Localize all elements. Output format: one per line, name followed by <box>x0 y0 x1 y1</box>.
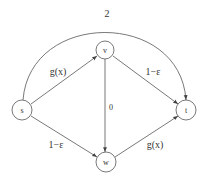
node-t: t <box>176 100 196 120</box>
edge-labels: 2 g(x) 1−ε 0 1−ε g(x) <box>49 8 164 151</box>
edge-w-t <box>115 116 178 157</box>
edge-label-s-t: 2 <box>105 8 110 19</box>
edge-s-w <box>31 116 97 157</box>
edge-label-w-t: g(x) <box>147 139 164 151</box>
nodes: s v w t <box>12 41 196 172</box>
flow-network-diagram: 2 g(x) 1−ε 0 1−ε g(x) s v w t <box>0 0 208 183</box>
edge-label-v-w: 0 <box>109 103 113 112</box>
node-w: w <box>96 152 116 172</box>
edge-s-v <box>31 56 97 104</box>
edge-label-s-v: g(x) <box>50 66 67 78</box>
svg-text:s: s <box>20 106 23 115</box>
node-v: v <box>96 41 114 59</box>
edge-label-v-t: 1−ε <box>146 66 161 77</box>
node-s: s <box>12 100 32 120</box>
edge-v-t <box>113 56 178 104</box>
svg-text:v: v <box>103 46 107 55</box>
edge-label-s-w: 1−ε <box>49 139 64 150</box>
svg-text:w: w <box>103 158 109 167</box>
